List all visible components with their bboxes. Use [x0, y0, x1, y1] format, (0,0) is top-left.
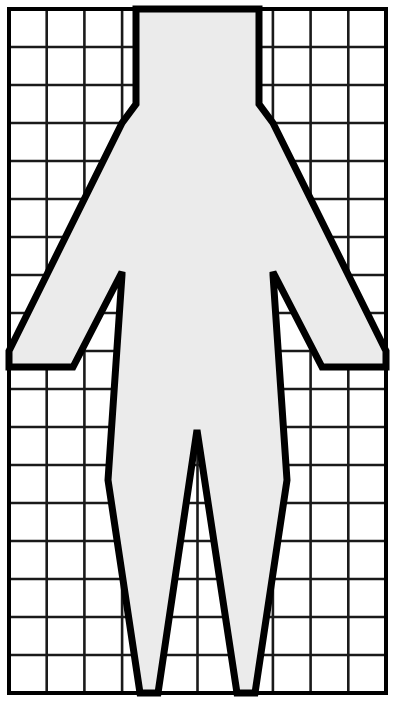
- figure-grid-drawing: [0, 0, 397, 712]
- figure-canvas: Human Figure Grid Pattern Black-and-whit…: [0, 0, 397, 712]
